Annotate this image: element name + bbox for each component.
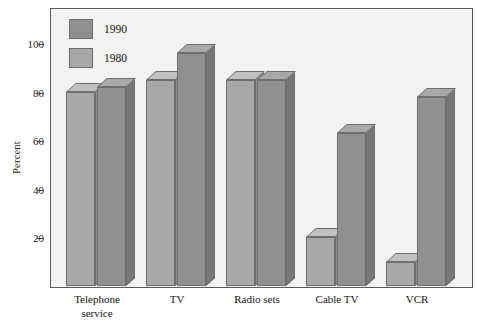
y-tick-mark [37,141,44,142]
bar-side-face [206,45,215,286]
bar-front-face [386,262,415,286]
legend-swatch-1990 [69,19,93,39]
bar-front-face [417,97,446,286]
bar-1990-3 [337,133,366,286]
y-tick-mark [37,238,44,239]
legend: 1990 1980 [69,19,127,77]
x-tick-label: VCR [362,293,472,307]
bar-front-face [177,53,206,286]
bar-1990-0 [97,87,126,286]
bar-1980-4 [386,262,415,286]
y-tick-mark [37,44,44,45]
plot-inner: 1990 1980 [51,9,472,287]
bar-front-face [146,80,175,286]
bar-1990-1 [177,53,206,286]
bar-1990-4 [417,97,446,286]
bar-1980-3 [306,237,335,286]
bar-front-face [257,80,286,286]
legend-item-1980: 1980 [69,48,127,68]
legend-item-1990: 1990 [69,19,127,39]
bar-front-face [66,92,95,286]
bar-front-face [226,80,255,286]
legend-swatch-1980 [69,48,93,68]
bar-side-face [366,125,375,286]
y-tick-mark [37,190,44,191]
legend-label-1980: 1980 [104,52,127,64]
bar-side-face [126,79,135,286]
plot-area: 1990 1980 [50,8,473,288]
bar-1980-1 [146,80,175,286]
bar-1990-2 [257,80,286,286]
bar-1980-0 [66,92,95,286]
y-tick-mark [37,93,44,94]
bar-front-face [337,133,366,286]
legend-label-1990: 1990 [104,23,127,35]
y-axis-ticks: 20406080100 [0,0,44,322]
bar-1980-2 [226,80,255,286]
bar-front-face [306,237,335,286]
bar-chart: Percent 20406080100 1990 1980 Telephones… [0,0,479,322]
bar-front-face [97,87,126,286]
x-axis-labels: TelephoneserviceTVRadio setsCable TVVCR [50,290,473,322]
bar-side-face [446,89,455,286]
bar-side-face [286,72,295,286]
